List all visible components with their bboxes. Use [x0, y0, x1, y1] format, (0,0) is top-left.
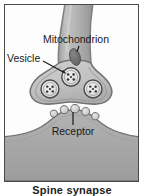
synaptic-vesicle: [41, 80, 59, 98]
dendritic-spine: [5, 110, 138, 181]
synapse-illustration: Mitochondrion Vesicle Receptor: [5, 5, 138, 181]
mitochondrion-label: Mitochondrion: [43, 33, 109, 45]
synaptic-vesicle: [84, 80, 102, 98]
receptor-label: Receptor: [52, 125, 95, 137]
illustration-panel: Mitochondrion Vesicle Receptor: [4, 4, 139, 182]
synaptic-vesicle: [62, 68, 80, 86]
spine-synapse-figure: Mitochondrion Vesicle Receptor Spine syn…: [0, 0, 144, 196]
figure-caption: Spine synapse: [0, 184, 144, 196]
vesicle-label: Vesicle: [7, 52, 40, 64]
